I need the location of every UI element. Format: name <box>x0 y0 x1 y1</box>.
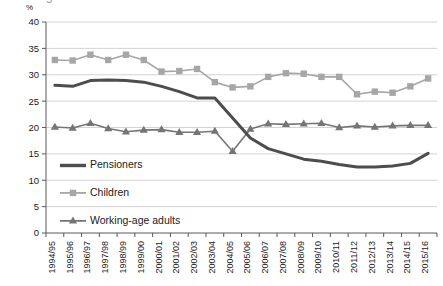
chart-container: g % 0510152025303540 1994/951995/961996/… <box>0 0 443 286</box>
x-axis-tick-label: 2012/13 <box>367 241 377 274</box>
series-working-age-adults <box>51 119 432 154</box>
legend-item-working-age-adults[interactable]: Working-age adults <box>60 214 180 226</box>
x-axis-tick-label: 2007/08 <box>278 241 288 274</box>
x-axis-tick-label: 2005/06 <box>242 241 252 274</box>
line-chart: 0510152025303540 1994/951995/961996/9719… <box>0 0 443 286</box>
x-axis-tick-label: 2006/07 <box>260 241 270 274</box>
x-axis-tick-label: 1999/00 <box>136 241 146 274</box>
x-axis-tick-labels: 1994/951995/961996/971997/981998/991999/… <box>47 241 430 274</box>
data-series-group <box>51 52 432 168</box>
gridlines-group <box>46 22 437 207</box>
x-axis-tick-label: 2011/12 <box>349 241 359 273</box>
x-axis-tick-label: 1998/99 <box>118 241 128 274</box>
x-axis-tick-label: 1996/97 <box>82 241 92 274</box>
chart-legend: PensionersChildrenWorking-age adults <box>60 158 180 225</box>
x-axis-tick-label: 2004/05 <box>225 241 235 274</box>
legend-label: Working-age adults <box>90 214 180 226</box>
x-axis-tick-label: 2002/03 <box>189 241 199 274</box>
y-axis-tick-label: 35 <box>28 43 39 54</box>
x-axis-tick-label: 2003/04 <box>207 241 217 274</box>
y-axis-unit-label: % <box>26 3 33 12</box>
y-axis-tick-label: 25 <box>28 96 39 107</box>
legend-label: Children <box>90 186 129 198</box>
y-axis-tick-label: 5 <box>34 201 39 212</box>
x-axis-tick-label: 2009/10 <box>313 241 323 274</box>
clipped-title-fragment: g <box>46 0 53 3</box>
x-axis-tick-label: 2013/14 <box>385 241 395 274</box>
y-axis-tick-label: 10 <box>28 175 39 186</box>
x-axis-tick-label: 1997/98 <box>100 241 110 274</box>
legend-item-children[interactable]: Children <box>60 186 129 198</box>
x-axis-tick-label: 2000/01 <box>154 241 164 274</box>
y-axis-tick-label: 20 <box>28 122 39 133</box>
y-axis-tick-label: 0 <box>34 227 39 238</box>
x-axis-tick-label: 1994/95 <box>47 241 57 274</box>
legend-item-pensioners[interactable]: Pensioners <box>60 158 143 170</box>
legend-label: Pensioners <box>90 158 143 170</box>
y-axis-tick-label: 30 <box>28 69 39 80</box>
x-axis-tick-label: 2014/15 <box>402 241 412 274</box>
x-axis-tick-label: 2008/09 <box>296 241 306 274</box>
x-axis-tick-label: 2015/16 <box>420 241 430 274</box>
x-axis-tick-label: 1995/96 <box>65 241 75 274</box>
y-axis-tick-label: 15 <box>28 148 39 159</box>
x-axis-tick-label: 2001/02 <box>171 241 181 274</box>
y-axis-tick-labels: 0510152025303540 <box>28 16 39 238</box>
x-axis-tick-label: 2010/11 <box>331 241 341 273</box>
y-axis-tick-label: 40 <box>28 16 39 27</box>
